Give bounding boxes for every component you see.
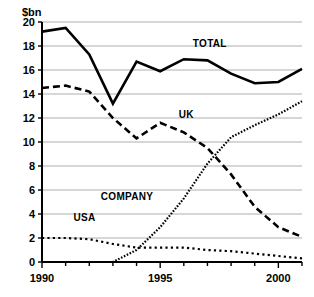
y-tick-label-6: 6 bbox=[29, 184, 35, 196]
y-tick-label-8: 8 bbox=[29, 160, 35, 172]
x-tick-label-1995: 1995 bbox=[148, 272, 172, 284]
y-tick-label-4: 4 bbox=[29, 208, 36, 220]
x-tick-label-2000: 2000 bbox=[266, 272, 290, 284]
y-tick-label-10: 10 bbox=[23, 136, 35, 148]
line-chart: 02468101214161820 199019952000 TOTALUKCO… bbox=[0, 0, 314, 297]
series-label-total: TOTAL bbox=[193, 38, 227, 49]
series-label-company: COMPANY bbox=[101, 191, 154, 202]
chart-container: 02468101214161820 199019952000 TOTALUKCO… bbox=[0, 0, 314, 297]
series-label-usa: USA bbox=[74, 212, 96, 223]
y-tick-label-18: 18 bbox=[23, 40, 35, 52]
x-tick-label-1990: 1990 bbox=[30, 272, 54, 284]
y-tick-label-0: 0 bbox=[29, 256, 35, 268]
y-tick-label-14: 14 bbox=[23, 88, 36, 100]
y-tick-label-2: 2 bbox=[29, 232, 35, 244]
y-tick-label-12: 12 bbox=[23, 112, 35, 124]
y-axis-title: $bn bbox=[22, 6, 42, 18]
y-tick-label-16: 16 bbox=[23, 64, 35, 76]
series-label-uk: UK bbox=[179, 109, 195, 120]
chart-background bbox=[0, 0, 314, 297]
